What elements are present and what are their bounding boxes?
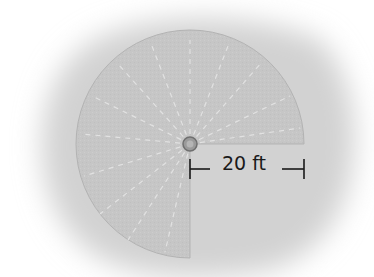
radius-label: 20 ft xyxy=(222,154,266,173)
center-hub-inner xyxy=(187,141,194,148)
figure-canvas xyxy=(0,0,374,277)
